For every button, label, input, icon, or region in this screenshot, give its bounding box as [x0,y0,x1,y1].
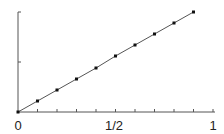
data-point-marker [173,22,176,25]
data-point-marker [56,89,59,92]
data-point-marker [36,100,39,103]
data-point-marker [17,111,20,114]
data-point-marker [95,67,98,70]
data-point-marker [153,33,156,36]
x-tick-label: 1/2 [105,118,123,133]
data-point-marker [75,78,78,81]
series-line [18,12,194,112]
data-series [17,11,196,114]
axes [18,12,215,112]
data-point-marker [134,44,137,47]
data-point-marker [192,11,195,14]
x-tick-label: 0 [15,118,22,133]
x-tick-label: 1 [210,118,217,133]
line-chart [0,0,224,134]
data-point-marker [114,55,117,58]
